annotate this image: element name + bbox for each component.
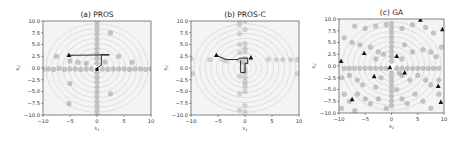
sample-point [84, 61, 89, 66]
sample-point [363, 96, 368, 101]
x-tick-label: 0 [243, 118, 246, 124]
sample-point [342, 35, 347, 40]
sample-point [73, 66, 78, 71]
sample-point [389, 103, 394, 108]
sample-point [67, 81, 72, 86]
x-tick-label: 10 [296, 118, 303, 124]
subplot-3: −10−5051010.07.55.02.50.0−2.5−5.0−7.5−10… [310, 8, 447, 130]
sample-point [410, 66, 415, 71]
sample-point [108, 91, 113, 96]
sample-point [420, 66, 425, 71]
sample-point [360, 82, 365, 87]
sample-point [399, 56, 404, 61]
sample-point [116, 66, 121, 71]
sample-point [132, 66, 137, 71]
sample-point [94, 33, 99, 38]
y-tick-label: −2.5 [175, 77, 188, 83]
sample-point [237, 42, 242, 47]
sample-point [242, 27, 247, 32]
y-tick-label: −7.5 [323, 98, 336, 104]
sample-point [130, 60, 135, 65]
sample-point [138, 66, 143, 71]
sample-point [94, 42, 99, 47]
y-tick-label: 0.0 [32, 65, 40, 71]
sample-point [266, 57, 271, 62]
x-tick-label: 0 [95, 118, 98, 124]
y-tick-label: 10.0 [324, 16, 336, 22]
sample-point [94, 37, 99, 42]
sample-point [428, 49, 433, 54]
sample-point [94, 56, 99, 61]
sample-point [426, 66, 431, 71]
sample-point [384, 106, 389, 111]
y-tick-label: 7.5 [328, 28, 336, 34]
sample-point [237, 91, 242, 96]
square-marker [95, 68, 98, 71]
sample-point [352, 66, 357, 71]
sample-point [352, 23, 357, 28]
sample-point [373, 66, 378, 71]
sample-point [363, 26, 368, 31]
subplot-1: −10−5051010.07.55.02.50.0−2.5−5.0−7.5−10… [14, 10, 154, 132]
sample-point [76, 60, 81, 65]
sample-point [94, 80, 99, 85]
sample-point [376, 96, 381, 101]
sample-point [389, 59, 394, 64]
sample-point [423, 25, 428, 30]
sample-point [242, 49, 247, 54]
sample-point [207, 57, 212, 62]
sample-point [389, 94, 394, 99]
sample-point [394, 87, 399, 92]
sample-point [368, 101, 373, 106]
sample-point [368, 45, 373, 50]
y-tick-label: 10.0 [28, 18, 40, 24]
sample-point [363, 66, 368, 71]
sample-point [389, 85, 394, 90]
x-tick-label: −10 [38, 118, 49, 124]
sample-point [420, 99, 425, 104]
sample-point [94, 61, 99, 66]
y-tick-label: 7.5 [32, 30, 40, 36]
sample-point [94, 103, 99, 108]
sample-point [410, 49, 415, 54]
y-tick-label: −10.0 [172, 112, 188, 118]
sample-point [410, 22, 415, 27]
sample-point [89, 66, 94, 71]
sample-point [143, 67, 148, 72]
sample-point [339, 106, 344, 111]
sample-point [103, 59, 108, 64]
sample-point [242, 109, 247, 114]
subplot-2: −10−5051010.07.55.02.50.0−2.5−5.0−7.5−10… [162, 10, 302, 132]
subplot-title: (a) PROS [80, 10, 113, 19]
sample-point [237, 50, 242, 55]
sample-point [242, 41, 247, 46]
y-tick-label: −5.0 [175, 88, 188, 94]
sample-point [94, 75, 99, 80]
sample-point [357, 66, 362, 71]
sample-point [381, 52, 386, 57]
x-tick-label: 5 [270, 118, 273, 124]
sample-point [434, 54, 439, 59]
sample-point [389, 89, 394, 94]
sample-point [242, 103, 247, 108]
sample-point [62, 67, 67, 72]
sample-point [407, 78, 412, 83]
x-tick-label: −5 [66, 118, 74, 124]
y-tick-label: 2.5 [328, 51, 336, 57]
sample-point [46, 66, 51, 71]
y-tick-label: 0.0 [180, 65, 188, 71]
sample-point [415, 66, 420, 71]
sample-point [355, 78, 360, 83]
sample-point [431, 66, 436, 71]
sample-point [389, 54, 394, 59]
sample-point [67, 66, 72, 71]
sample-point [78, 67, 83, 72]
sample-point [389, 99, 394, 104]
sample-point [436, 92, 441, 97]
sample-point [67, 58, 72, 63]
sample-point [399, 96, 404, 101]
x-axis-label: x1 [94, 125, 100, 132]
sample-point [350, 40, 355, 45]
sample-point [100, 66, 105, 71]
sample-point [428, 82, 433, 87]
